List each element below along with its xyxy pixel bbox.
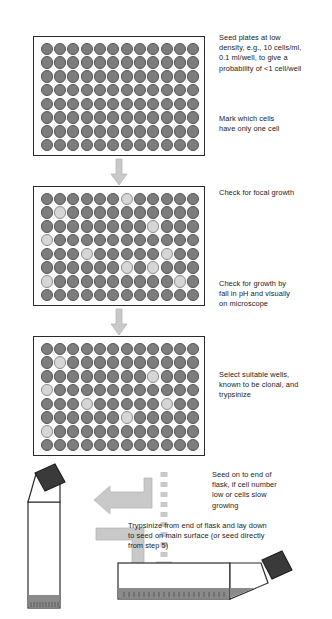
well-p2-r7-c6 [107, 275, 119, 287]
well-p2-r2-c10 [161, 206, 173, 218]
well-p2-r5-c7 [121, 248, 133, 260]
well-p2-r4-c4 [81, 234, 93, 246]
well-p2-r7-c12 [187, 275, 199, 287]
well-p2-r4-c9 [147, 234, 159, 246]
well-p1-r4-c9 [147, 84, 159, 96]
well-p3-r4-c1-growth [41, 384, 53, 396]
well-p1-r1-c6 [107, 43, 119, 55]
well-p1-r5-c12 [187, 98, 199, 110]
well-p3-r1-c6 [107, 343, 119, 355]
well-p1-r7-c6 [107, 125, 119, 137]
well-p3-r2-c2-growth [54, 356, 66, 368]
well-p1-r1-c7 [121, 43, 133, 55]
well-p1-r8-c6 [107, 139, 119, 151]
well-p1-r2-c3 [67, 56, 79, 68]
well-p3-r4-c11 [174, 384, 186, 396]
well-p3-r7-c8 [134, 425, 146, 437]
well-p3-r5-c2 [54, 398, 66, 410]
well-p3-r1-c12 [187, 343, 199, 355]
well-p1-r5-c9 [147, 98, 159, 110]
well-p3-r1-c3 [67, 343, 79, 355]
well-p1-r4-c5 [94, 84, 106, 96]
well-p2-r2-c11 [174, 206, 186, 218]
well-p1-r8-c5 [94, 139, 106, 151]
well-p1-r2-c11 [174, 56, 186, 68]
well-p1-r6-c9 [147, 111, 159, 123]
well-p3-r8-c5 [94, 439, 106, 451]
well-p2-r8-c11 [174, 289, 186, 301]
well-p1-r2-c4 [81, 56, 93, 68]
well-p2-r3-c10 [161, 220, 173, 232]
well-p2-r7-c11-growth [174, 275, 186, 287]
well-p1-r2-c8 [134, 56, 146, 68]
well-p2-r5-c1 [41, 248, 53, 260]
well-p2-r6-c2 [54, 261, 66, 273]
well-p3-r2-c7 [121, 356, 133, 368]
well-p1-r6-c1 [41, 111, 53, 123]
well-p1-r7-c5 [94, 125, 106, 137]
well-p3-r8-c1 [41, 439, 53, 451]
caption-seed-on-end: Seed on to end of flask, if cell number … [212, 470, 330, 511]
well-p3-r4-c6 [107, 384, 119, 396]
well-p2-r5-c5 [94, 248, 106, 260]
well-p1-r8-c3 [67, 139, 79, 151]
well-p2-r2-c2-growth [54, 206, 66, 218]
well-p3-r1-c5 [94, 343, 106, 355]
well-p1-r1-c10 [161, 43, 173, 55]
well-p2-r8-c2 [54, 289, 66, 301]
well-p1-r5-c6 [107, 98, 119, 110]
well-p2-r2-c4 [81, 206, 93, 218]
well-p2-r5-c12 [187, 248, 199, 260]
well-p1-r2-c1 [41, 56, 53, 68]
well-p1-r3-c4 [81, 70, 93, 82]
well-p2-r5-c8 [134, 248, 146, 260]
horizontal-flask-illustration [116, 557, 316, 613]
well-p1-r7-c4 [81, 125, 93, 137]
well-p1-r5-c3 [67, 98, 79, 110]
well-p1-r3-c12 [187, 70, 199, 82]
well-p1-r4-c12 [187, 84, 199, 96]
well-p3-r8-c9 [147, 439, 159, 451]
well-p2-r6-c12 [187, 261, 199, 273]
well-p2-r2-c6 [107, 206, 119, 218]
well-p1-r8-c2 [54, 139, 66, 151]
well-p2-r1-c2 [54, 193, 66, 205]
well-plate-1 [33, 36, 205, 156]
well-p3-r3-c9-growth [147, 370, 159, 382]
well-p1-r5-c11 [174, 98, 186, 110]
well-p3-r8-c12 [187, 439, 199, 451]
well-p3-r3-c12 [187, 370, 199, 382]
well-p3-r4-c10 [161, 384, 173, 396]
well-p3-r3-c2 [54, 370, 66, 382]
well-p2-r7-c4 [81, 275, 93, 287]
well-p2-r1-c5 [94, 193, 106, 205]
well-p3-r4-c3 [67, 384, 79, 396]
well-p1-r5-c7 [121, 98, 133, 110]
well-p1-r2-c10 [161, 56, 173, 68]
well-p2-r4-c5 [94, 234, 106, 246]
well-p3-r2-c8 [134, 356, 146, 368]
well-p3-r5-c5 [94, 398, 106, 410]
well-p1-r3-c11 [174, 70, 186, 82]
well-p3-r6-c9 [147, 411, 159, 423]
well-p3-r6-c1 [41, 411, 53, 423]
well-p2-r2-c7 [121, 206, 133, 218]
well-plate-3 [33, 336, 205, 456]
well-p3-r8-c11 [174, 439, 186, 451]
well-p2-r8-c4 [81, 289, 93, 301]
well-p3-r6-c12 [187, 411, 199, 423]
well-p3-r4-c12 [187, 384, 199, 396]
well-p3-r4-c4 [81, 384, 93, 396]
well-p1-r3-c5 [94, 70, 106, 82]
well-p3-r6-c7-growth [121, 411, 133, 423]
well-p2-r3-c9-growth [147, 220, 159, 232]
well-p1-r6-c7 [121, 111, 133, 123]
well-p1-r3-c9 [147, 70, 159, 82]
well-p3-r2-c10 [161, 356, 173, 368]
well-p1-r1-c4 [81, 43, 93, 55]
well-p1-r2-c2 [54, 56, 66, 68]
well-p2-r2-c12 [187, 206, 199, 218]
caption-trypsinize-flask: Trypsinize from end of flask and lay dow… [128, 521, 332, 552]
well-p3-r2-c4 [81, 356, 93, 368]
well-p3-r7-c4 [81, 425, 93, 437]
